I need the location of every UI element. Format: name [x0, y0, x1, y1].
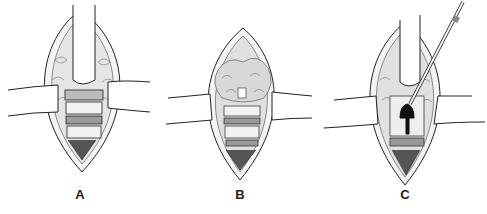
- incision-illustration-b: [160, 0, 330, 214]
- panel-label-b: B: [230, 187, 250, 202]
- incision-illustration-c: [320, 0, 487, 214]
- panel-c: C: [320, 0, 487, 214]
- panel-a: A: [0, 0, 160, 214]
- panel-label-c: C: [395, 187, 415, 202]
- panel-b: B: [160, 0, 330, 214]
- panel-label-a: A: [70, 187, 90, 202]
- incision-illustration-a: [0, 0, 160, 214]
